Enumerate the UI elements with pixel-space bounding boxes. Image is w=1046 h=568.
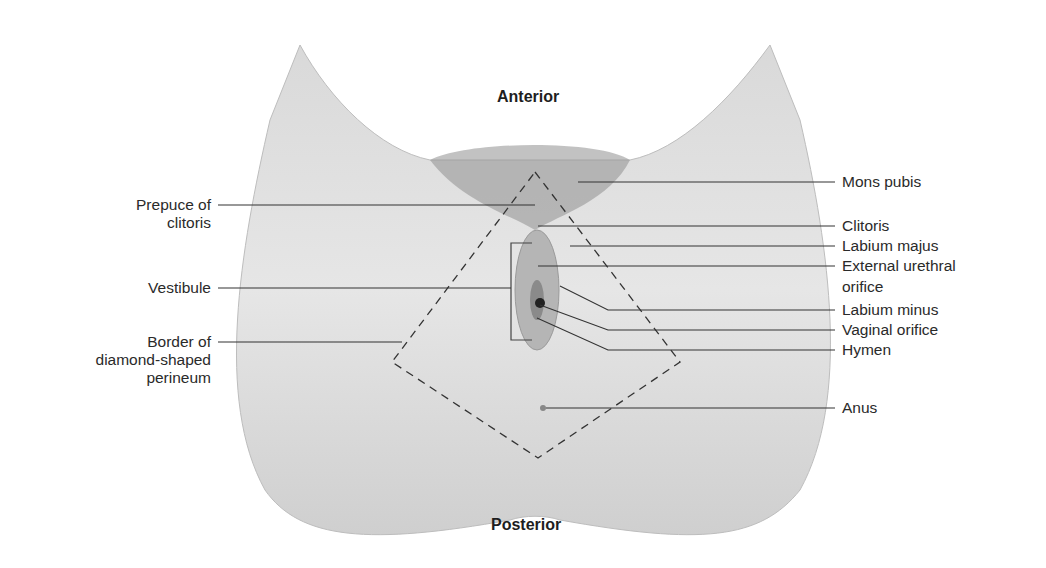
label-hymen: Hymen [842,341,891,359]
label-line: perineum [96,369,211,387]
posterior-label: Posterior [491,516,561,534]
label-labium-majus: Labium majus [842,237,939,255]
label-prepuce-of-clitoris: Prepuce of clitoris [136,196,211,232]
label-line: diamond-shaped [96,351,211,369]
label-line: Prepuce of [136,196,211,214]
label-line: orifice [842,278,956,296]
label-mons-pubis: Mons pubis [842,173,921,191]
label-clitoris: Clitoris [842,217,889,235]
label-line: clitoris [136,214,211,232]
anatomy-diagram: Anterior Posterior Prepuce of clitoris V… [0,0,1046,568]
anterior-label: Anterior [497,88,559,106]
label-border-of-perineum: Border of diamond-shaped perineum [96,333,211,387]
label-anus: Anus [842,399,877,417]
label-vaginal-orifice: Vaginal orifice [842,321,938,339]
label-external-urethral-orifice: External urethral orifice [842,257,956,296]
label-labium-minus: Labium minus [842,301,939,319]
label-line: Vestibule [148,279,211,297]
label-vestibule: Vestibule [148,279,211,297]
label-line: External urethral [842,257,956,275]
anus-marker [540,405,546,411]
label-line: Border of [96,333,211,351]
